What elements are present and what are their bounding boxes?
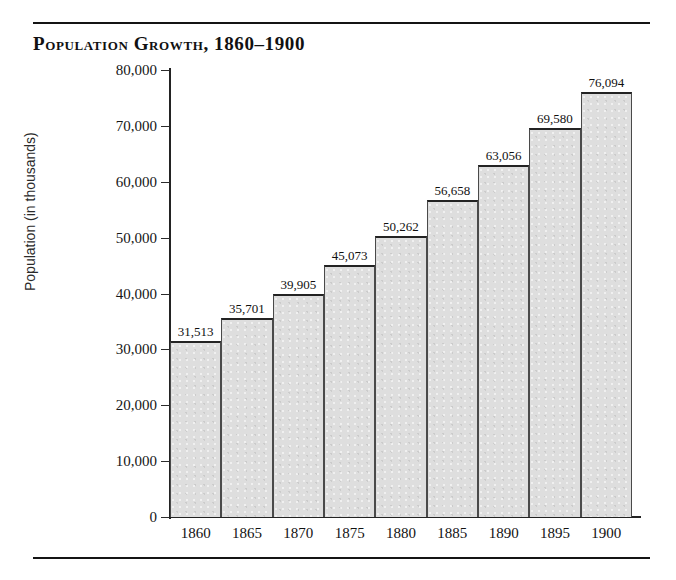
- y-axis-tick-mark: [161, 405, 170, 406]
- bar-value-label: 45,073: [332, 248, 368, 264]
- bar-value-label: 69,580: [537, 111, 573, 127]
- bar[interactable]: 31,5131860: [170, 341, 221, 517]
- bar[interactable]: 76,0941900: [581, 92, 632, 517]
- y-axis-tick-label: 80,000: [116, 62, 157, 79]
- x-axis-category-label: 1895: [540, 525, 570, 542]
- y-axis-tick-mark: [161, 294, 170, 295]
- top-rule: [33, 22, 650, 24]
- bar-value-label: 50,262: [383, 219, 419, 235]
- x-axis-category-label: 1865: [232, 525, 262, 542]
- bar-value-label: 31,513: [178, 324, 214, 340]
- bottom-rule: [33, 557, 650, 559]
- y-axis-tick-mark: [161, 70, 170, 71]
- plot-area: 010,00020,00030,00040,00050,00060,00070,…: [170, 70, 632, 517]
- y-axis-title: Population (in thousands): [22, 132, 38, 291]
- page-title: Population Growth, 1860–1900: [33, 33, 305, 55]
- x-axis-category-label: 1890: [489, 525, 519, 542]
- y-axis-tick-label: 30,000: [116, 341, 157, 358]
- y-axis-tick-mark: [161, 349, 170, 350]
- y-axis-tick-mark: [161, 182, 170, 183]
- y-axis-tick-mark: [161, 238, 170, 239]
- y-axis-tick-label: 50,000: [116, 229, 157, 246]
- bar[interactable]: 50,2621880: [375, 236, 426, 517]
- bar-value-label: 39,905: [280, 277, 316, 293]
- bar-value-label: 76,094: [588, 75, 624, 91]
- bar[interactable]: 56,6581885: [427, 200, 478, 517]
- bar[interactable]: 45,0731875: [324, 265, 375, 517]
- y-axis-tick-label: 20,000: [116, 397, 157, 414]
- x-axis-category-label: 1900: [591, 525, 621, 542]
- x-axis-category-label: 1885: [437, 525, 467, 542]
- x-axis-category-label: 1875: [335, 525, 365, 542]
- x-axis-category-label: 1860: [181, 525, 211, 542]
- bar-series: 31,513186035,701186539,905187045,0731875…: [170, 70, 632, 517]
- x-axis-category-label: 1870: [283, 525, 313, 542]
- y-axis-tick-label: 40,000: [116, 285, 157, 302]
- y-axis-tick-mark: [161, 461, 170, 462]
- bar[interactable]: 69,5801895: [529, 128, 580, 517]
- y-axis-tick-label: 70,000: [116, 117, 157, 134]
- figure-page: Population Growth, 1860–1900 Population …: [0, 0, 676, 580]
- bar[interactable]: 39,9051870: [273, 294, 324, 517]
- x-axis-category-label: 1880: [386, 525, 416, 542]
- bar-value-label: 56,658: [434, 183, 470, 199]
- bar[interactable]: 63,0561890: [478, 165, 529, 517]
- y-axis-tick-label: 60,000: [116, 173, 157, 190]
- y-axis-tick-label: 0: [150, 509, 158, 526]
- bar-value-label: 63,056: [486, 148, 522, 164]
- y-axis-tick-label: 10,000: [116, 453, 157, 470]
- bar[interactable]: 35,7011865: [221, 318, 272, 517]
- y-axis-tick-mark: [161, 517, 170, 518]
- y-axis-tick-mark: [161, 126, 170, 127]
- bar-value-label: 35,701: [229, 301, 265, 317]
